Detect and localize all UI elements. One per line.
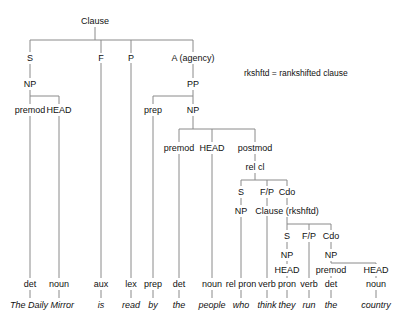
pos-tag-label: det [324, 279, 339, 289]
sentence-word: The Daily Mirror [9, 300, 75, 310]
pos-tag-label: verb [299, 279, 319, 289]
tree-node-label: A (agency) [170, 53, 215, 63]
tree-node-label: Cdo [322, 231, 341, 241]
tree-node-label: NP [234, 206, 249, 216]
tree-node-label: NP [280, 250, 295, 260]
pos-tag-label: lex [124, 279, 138, 289]
sentence-word: the [172, 300, 187, 310]
sentence-word: country [360, 300, 392, 310]
tree-node-label: S [237, 187, 245, 197]
tree-node-label: S [26, 53, 34, 63]
tree-node-label: NP [23, 79, 38, 89]
tree-node-label: F [97, 53, 105, 63]
pos-tag-label: det [23, 279, 38, 289]
syntax-tree-diagram: ClauseSFPA (agency)NPPPpremodHEADprepNPp… [0, 0, 406, 323]
pos-tag-label: pron [277, 279, 297, 289]
tree-node-label: F/P [301, 231, 317, 241]
sentence-word: read [121, 300, 141, 310]
tree-node-label: NP [186, 105, 201, 115]
pos-tag-label: noun [365, 279, 387, 289]
tree-node-label: P [127, 53, 135, 63]
sentence-word: people [197, 300, 226, 310]
pos-tag-label: rel pron [225, 279, 258, 289]
sentence-word: by [147, 300, 159, 310]
tree-node-label: F/P [259, 187, 275, 197]
tree-node-label: HEAD [362, 265, 389, 275]
tree-node-label: premod [315, 265, 348, 275]
tree-node-label: prep [143, 105, 163, 115]
tree-node-label: NP [324, 250, 339, 260]
sentence-word: the [324, 300, 339, 310]
tree-node-label: PP [186, 79, 200, 89]
sentence-word: think [256, 300, 277, 310]
pos-tag-label: det [172, 279, 187, 289]
tree-node-label: premod [14, 105, 47, 115]
tree-node-label: premod [163, 143, 196, 153]
tree-node-label: postmod [237, 143, 274, 153]
sentence-word: they [277, 300, 296, 310]
sentence-word: who [232, 300, 251, 310]
abbreviation-note: rkshftd = rankshifted clause [244, 68, 348, 78]
pos-tag-label: prep [143, 279, 163, 289]
pos-tag-label: aux [93, 279, 110, 289]
tree-node-label: S [283, 231, 291, 241]
pos-tag-label: noun [48, 279, 70, 289]
tree-node-label: Clause (rkshftd) [254, 206, 320, 216]
tree-node-label: HEAD [198, 143, 225, 153]
sentence-word: is [97, 300, 106, 310]
pos-tag-label: noun [201, 279, 223, 289]
sentence-word: run [301, 300, 316, 310]
tree-node-label: Clause [80, 16, 110, 26]
pos-tag-label: verb [257, 279, 277, 289]
tree-node-label: HEAD [45, 105, 72, 115]
tree-node-label: rel cl [244, 162, 265, 172]
tree-node-label: HEAD [273, 265, 300, 275]
tree-node-label: Cdo [278, 187, 297, 197]
